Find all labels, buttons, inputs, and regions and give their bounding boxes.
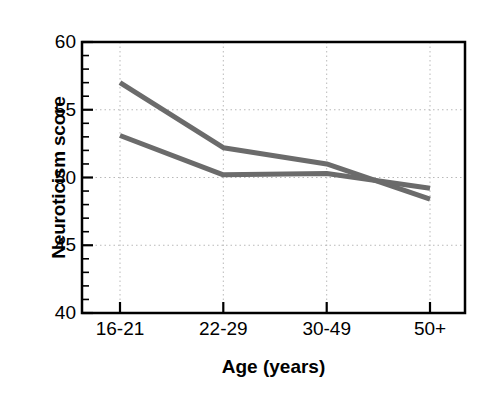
data-series-lines [120, 83, 430, 200]
x-axis-tick-label: 30-49 [302, 319, 351, 338]
x-axis-tick-label: 16-21 [96, 319, 145, 338]
data-line-2 [120, 135, 430, 188]
chart-figure: Neuroticism score 4045505560 16-2122-293… [0, 0, 485, 403]
x-axis-tick-label: 22-29 [199, 319, 248, 338]
plot-frame [82, 42, 465, 313]
gridlines [82, 42, 465, 313]
x-axis-tick-labels: 16-2122-2930-4950+ [0, 319, 485, 347]
axis-major-ticks [82, 42, 430, 313]
x-axis-tick-label: 50+ [414, 319, 446, 338]
x-axis-title: Age (years) [82, 356, 465, 378]
